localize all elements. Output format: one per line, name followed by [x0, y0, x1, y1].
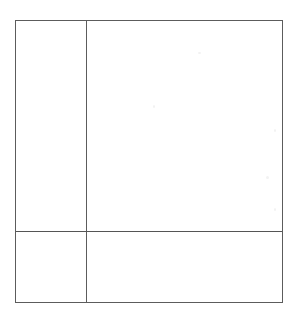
scanned-page	[0, 0, 290, 318]
vertical-divider-rule	[86, 21, 87, 302]
table-cell-bottom-right-text	[87, 232, 282, 238]
table-cell-bottom-left-text	[16, 232, 86, 238]
table-cell-bottom-left[interactable]	[16, 232, 86, 302]
table-cell-top-left-text	[16, 21, 86, 27]
table-cell-top-right-text	[87, 21, 282, 27]
table-cell-bottom-right[interactable]	[87, 232, 282, 302]
table-cell-top-left[interactable]	[16, 21, 86, 231]
horizontal-divider-rule	[16, 231, 282, 232]
table-cell-top-right[interactable]	[87, 21, 282, 231]
form-grid-table	[15, 20, 283, 303]
